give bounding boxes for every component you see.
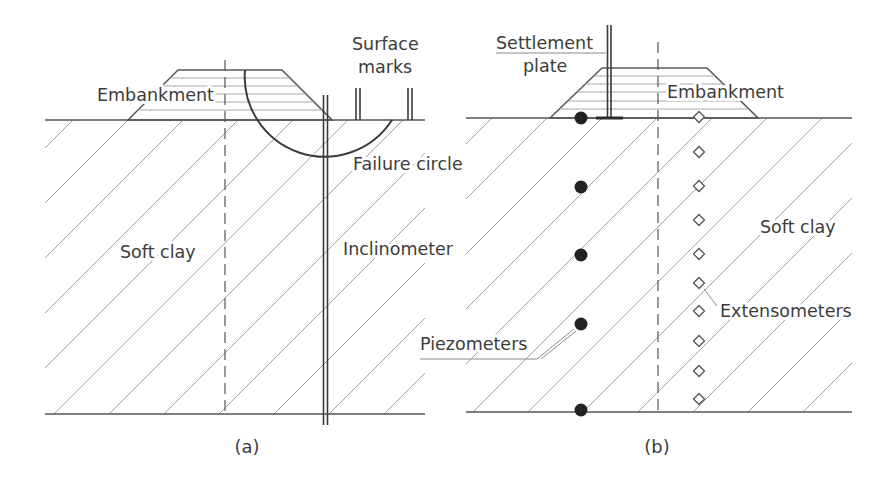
piezometers-label: Piezometers [420,334,527,354]
piezometer-icon [575,112,588,125]
settlement-plate-label-line2: plate [523,56,567,76]
panel-b: Settlement plate Embankment Soft clay Ex… [420,25,852,457]
caption-a: (a) [234,436,259,457]
caption-b: (b) [644,436,669,457]
extensometers-label: Extensometers [720,301,852,321]
soft-clay-hatch-b [466,118,852,412]
surface-mark [356,88,360,120]
piezometer-icon [575,181,588,194]
inclinometer-label: Inclinometer [343,239,454,259]
soft-clay-label-b: Soft clay [760,217,836,237]
piezometer-icon [575,318,588,331]
geotechnical-instrumentation-figure: Embankment Surface marks Failure circle … [0,0,896,482]
embankment-label-a: Embankment [97,85,214,105]
piezometer-icon [575,404,588,417]
surface-marks-label-line2: marks [358,57,412,77]
settlement-plate-label-line1: Settlement [496,33,593,53]
soft-clay-label-a: Soft clay [120,242,196,262]
embankment-label-b: Embankment [667,82,784,102]
piezometer-icon [575,249,588,262]
panel-a: Embankment Surface marks Failure circle … [45,34,463,457]
failure-circle-label: Failure circle [353,154,463,174]
surface-marks-label-line1: Surface [352,34,419,54]
surface-mark [408,88,412,120]
surface-marks [356,88,412,120]
